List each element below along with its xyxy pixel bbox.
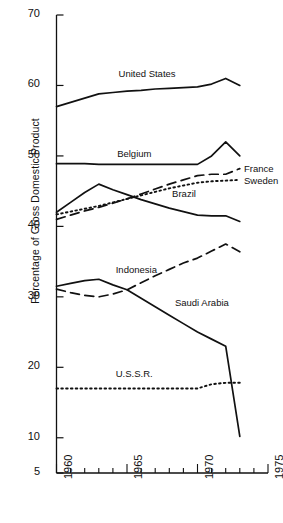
chart-figure: Percentage of Gross Domestic Product 510… (0, 0, 283, 523)
y-tick-label: 10 (14, 430, 40, 442)
series-label-brazil: Brazil (172, 188, 196, 199)
series-label-indonesia: Indonesia (116, 264, 157, 275)
series-line-united-states (57, 78, 240, 106)
y-tick-label: 40 (14, 218, 40, 230)
series-label-saudi-arabia: Saudi Arabia (175, 297, 229, 308)
y-tick-label: 50 (14, 148, 40, 160)
x-tick-label: 1970 (203, 455, 215, 479)
series-label-united-states: United States (119, 68, 176, 79)
series-label-belgium: Belgium (117, 148, 151, 159)
series-line-brazil (57, 184, 240, 221)
y-tick-label: 60 (14, 77, 40, 89)
y-tick-label: 20 (14, 359, 40, 371)
series-label-sweden: Sweden (244, 175, 278, 186)
series-line-sweden (57, 180, 240, 215)
y-tick-label: 30 (14, 289, 40, 301)
x-tick-label: 1975 (273, 455, 283, 479)
x-tick-label: 1960 (62, 455, 74, 479)
x-tick-label: 1965 (132, 455, 144, 479)
y-tick-label: 5 (14, 465, 40, 477)
series-line-u-s-s-r (57, 383, 240, 389)
series-label-france: France (244, 163, 274, 174)
y-tick-label: 70 (14, 7, 40, 19)
series-label-u-s-s-r: U.S.S.R. (116, 368, 153, 379)
y-axis-title: Percentage of Gross Domestic Product (29, 81, 41, 341)
